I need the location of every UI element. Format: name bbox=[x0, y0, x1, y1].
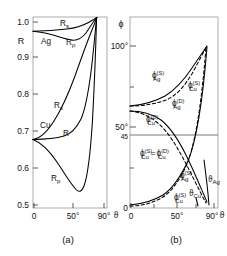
panel-b-ytick-45: 45 bbox=[121, 133, 129, 140]
panel-b: 100° 50° 45 0 ϕ 0 50° 90° ϑ bbox=[111, 17, 225, 245]
panel-b-ytick-50: 50° bbox=[115, 122, 128, 132]
curve-phi-ag-d-upper bbox=[130, 46, 207, 106]
panel-a-ytick-1: 1.0 bbox=[17, 17, 29, 27]
panel-a-ytick-6: 0.5 bbox=[17, 200, 29, 210]
figure-container: 1.0 0.9 0.8 0.7 0.6 0.5 R 0 50° 90° ϑ Rs bbox=[0, 0, 227, 256]
label-phi-ag-d: ϕ(D)Ag bbox=[172, 98, 184, 110]
label-phi-cu-equation: ϕ(S)Cu=ϕ(D)Cu bbox=[140, 148, 169, 160]
panel-a-xtick-1: 0 bbox=[32, 211, 37, 221]
label-phi-cu-d: ϕ(D)Cu bbox=[146, 114, 158, 126]
panel-b-yticks bbox=[130, 46, 136, 168]
panel-a-xticks bbox=[34, 203, 104, 208]
label-ag-rs: Rs bbox=[60, 19, 69, 29]
panel-b-xlabel: ϑ bbox=[220, 210, 225, 220]
label-cu-rs: Rs bbox=[54, 101, 63, 111]
label-cu-material: Cu bbox=[40, 121, 51, 130]
panel-a-ylabel: R bbox=[18, 36, 25, 46]
label-ag-material: Ag bbox=[41, 37, 51, 46]
label-phi-ag-s-upper: ϕ(S)Ag bbox=[152, 70, 164, 82]
panel-a-ytick-3: 0.8 bbox=[17, 89, 29, 99]
panel-a-ytick-4: 0.7 bbox=[17, 126, 29, 136]
panel-b-xtick-1: 0 bbox=[129, 211, 134, 221]
panel-b-xtick-3: 90° bbox=[206, 211, 219, 221]
panel-b-ytick-100: 100° bbox=[111, 41, 128, 51]
curve-phi-ag-s-upper bbox=[130, 46, 207, 106]
figure-svg: 1.0 0.9 0.8 0.7 0.6 0.5 R 0 50° 90° ϑ Rs bbox=[0, 0, 227, 256]
panel-a-xtick-2: 50° bbox=[67, 211, 80, 221]
label-cu-r: R bbox=[63, 129, 69, 138]
panel-a-yticks bbox=[33, 22, 38, 205]
panel-a: 1.0 0.9 0.8 0.7 0.6 0.5 R 0 50° 90° ϑ Rs bbox=[17, 17, 118, 245]
panel-b-ylabel: ϕ bbox=[118, 19, 123, 29]
panel-b-xticks bbox=[131, 203, 214, 208]
curve-phi-ag-s-lower bbox=[130, 47, 207, 205]
label-phi-cu-s-upper: ϕ(S)Cu bbox=[188, 80, 200, 92]
panel-a-caption: (a) bbox=[62, 234, 74, 245]
label-ag-rp: Rp bbox=[66, 38, 76, 48]
panel-b-ytick-0: 0 bbox=[123, 203, 128, 213]
label-cu-rp: Rp bbox=[51, 174, 61, 184]
panel-a-ytick-2: 0.9 bbox=[17, 52, 29, 62]
panel-a-xtick-3: 90° bbox=[98, 211, 111, 221]
label-theta-cu: ϑCu bbox=[189, 189, 201, 199]
panel-a-ytick-5: 0.6 bbox=[17, 163, 29, 173]
label-phi-ag-s-lower: ϕ(S)Ag bbox=[180, 170, 192, 182]
panel-b-xtick-2: 50° bbox=[171, 211, 184, 221]
panel-b-caption: (b) bbox=[170, 234, 182, 245]
label-phi-cu-s-lower: ϕ(S)Cu bbox=[174, 192, 186, 204]
panel-a-xlabel: ϑ bbox=[114, 210, 119, 220]
